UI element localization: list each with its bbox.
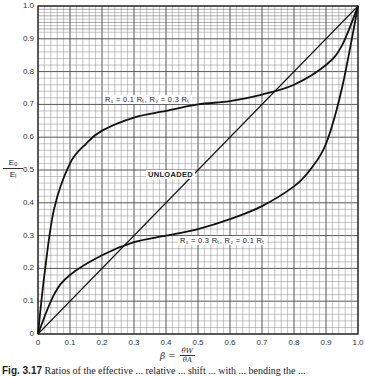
x-axis-label: β = θW θA	[160, 347, 195, 364]
y-tick-label: 0.2	[10, 263, 34, 272]
y-tick-label: 0.4	[10, 198, 34, 207]
x-tick-label: 0	[28, 338, 48, 347]
y-tick-label: 0.1	[10, 296, 34, 305]
caption-number: Fig. 3.17	[2, 365, 42, 376]
x-tick-label: 0.7	[252, 338, 272, 347]
x-tick-label: 0.4	[156, 338, 176, 347]
figure-caption: Fig. 3.17 Ratios of the effective ... re…	[2, 365, 305, 376]
y-tick-label: 1.0	[10, 1, 34, 10]
y-label-numerator: Eₒ	[3, 158, 23, 169]
y-tick-label: 0	[10, 329, 34, 338]
y-tick-label: 0.9	[10, 34, 34, 43]
x-tick-label: 0.1	[60, 338, 80, 347]
y-tick-label: 0.6	[10, 132, 34, 141]
x-tick-label: 0.9	[316, 338, 336, 347]
caption-text: Ratios of the effective ... relative ...…	[45, 365, 306, 376]
chart-plot-area	[0, 0, 365, 377]
y-tick-label: 0.7	[10, 99, 34, 108]
x-tick-label: 1.0	[348, 338, 365, 347]
x-tick-label: 0.5	[188, 338, 208, 347]
y-axis-label: Eₒ Eᵢ	[3, 158, 23, 179]
y-tick-label: 0.8	[10, 67, 34, 76]
y-tick-label: 0.3	[10, 231, 34, 240]
x-label-beta: β =	[160, 351, 176, 361]
unloaded-label: UNLOADED	[146, 170, 195, 179]
x-tick-label: 0.6	[220, 338, 240, 347]
x-label-fraction: θW θA	[180, 347, 195, 364]
x-label-numerator: θW	[180, 347, 195, 356]
x-tick-label: 0.8	[284, 338, 304, 347]
upper-curve-label: R₁ = 0.1 Rₜ, R₂ = 0.3 Rₜ	[103, 95, 192, 104]
x-tick-label: 0.2	[92, 338, 112, 347]
y-label-denominator: Eᵢ	[3, 169, 23, 179]
x-label-denominator: θA	[183, 356, 192, 364]
x-tick-label: 0.3	[124, 338, 144, 347]
lower-curve-label: R₁ = 0.3 Rₜ, R₂ = 0.1 Rₜ	[178, 236, 267, 245]
